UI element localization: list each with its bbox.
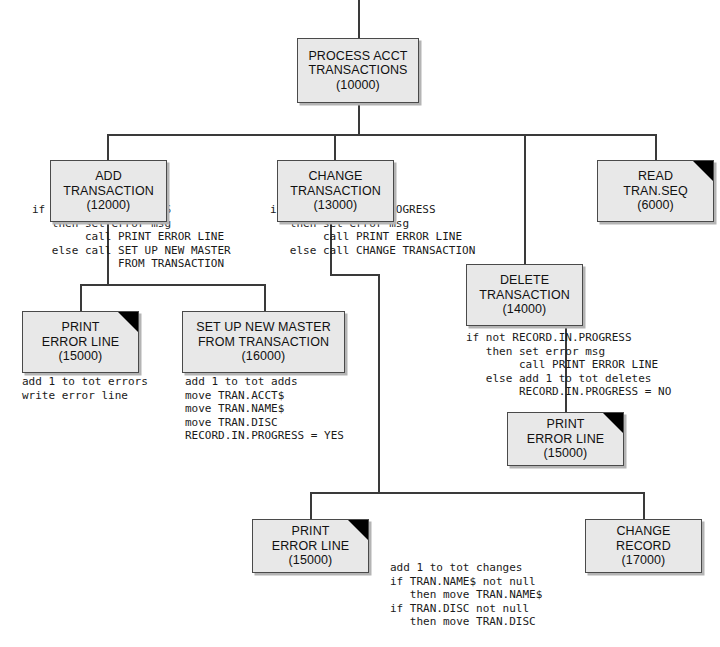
- connector-drop-read: [655, 134, 657, 160]
- module-set-up-new-master[interactable]: SET UP NEW MASTER FROM TRANSACTION (1600…: [182, 311, 345, 373]
- connector-root-to-bus: [358, 103, 360, 136]
- module-label-line1: PRINT: [62, 320, 100, 335]
- connector-drop-print-error-change: [310, 492, 312, 519]
- module-label-line2: TRANSACTION: [63, 184, 154, 199]
- connector-bus-change-children: [310, 492, 645, 494]
- module-number: (13000): [314, 198, 358, 213]
- connector-drop-change-record: [643, 492, 645, 519]
- connector-bus-add-children: [80, 284, 266, 286]
- module-number: (17000): [622, 553, 666, 568]
- module-label-line1: CHANGE: [308, 169, 362, 184]
- module-print-error-line-from-change[interactable]: PRINT ERROR LINE (15000): [252, 519, 369, 573]
- module-label-line2: TRANSACTIONS: [308, 63, 407, 78]
- module-number: (15000): [544, 446, 588, 461]
- pseudocode-print-error-line-from-add: add 1 to tot errors write error line: [22, 375, 148, 402]
- module-label-line1: CHANGE: [616, 524, 670, 539]
- module-label-line2: ERROR LINE: [527, 432, 604, 447]
- module-label-line1: READ: [638, 169, 673, 184]
- module-label-line2: TRANSACTION: [290, 184, 381, 199]
- module-label-line1: SET UP NEW MASTER: [196, 320, 331, 335]
- module-process-acct-transactions[interactable]: PROCESS ACCT TRANSACTIONS (10000): [297, 38, 419, 103]
- connector-drop-delete: [524, 134, 526, 264]
- module-label-line1: PRINT: [547, 417, 585, 432]
- module-print-error-line-from-delete[interactable]: PRINT ERROR LINE (15000): [507, 412, 624, 466]
- module-change-record[interactable]: CHANGE RECORD (17000): [585, 519, 702, 573]
- pseudocode-set-up-new-master: add 1 to tot adds move TRAN.ACCT$ move T…: [185, 375, 344, 443]
- connector-change-long-drop: [378, 274, 380, 494]
- module-label-line1: DELETE: [500, 273, 549, 288]
- module-delete-transaction[interactable]: DELETE TRANSACTION (14000): [466, 264, 583, 326]
- structure-chart-canvas: PROCESS ACCT TRANSACTIONS (10000) ADD TR…: [0, 0, 720, 647]
- module-number: (10000): [336, 78, 380, 93]
- module-number: (15000): [59, 349, 103, 364]
- pseudocode-delete-transaction: if not RECORD.IN.PROGRESS then set error…: [466, 331, 671, 399]
- module-number: (6000): [637, 198, 674, 213]
- module-label-line2: TRANSACTION: [479, 288, 570, 303]
- module-label-line1: PRINT: [292, 524, 330, 539]
- module-number: (15000): [289, 553, 333, 568]
- module-number: (12000): [87, 198, 131, 213]
- connector-bus-row2: [107, 134, 656, 136]
- connector-drop-change: [334, 134, 336, 160]
- module-number: (14000): [503, 302, 547, 317]
- module-read-tran-seq[interactable]: READ TRAN.SEQ (6000): [597, 160, 714, 222]
- connector-drop-add: [107, 134, 109, 160]
- module-add-transaction[interactable]: ADD TRANSACTION (12000): [50, 160, 167, 222]
- module-number: (16000): [242, 349, 286, 364]
- connector-root-stub: [358, 0, 360, 38]
- connector-drop-set-up-new-master: [264, 284, 266, 311]
- module-label-line2: ERROR LINE: [272, 539, 349, 554]
- module-print-error-line-from-add[interactable]: PRINT ERROR LINE (15000): [22, 311, 139, 373]
- module-label-line2: FROM TRANSACTION: [198, 335, 329, 350]
- connector-drop-print-error-add: [80, 284, 82, 311]
- module-label-line2: TRAN.SEQ: [623, 184, 688, 199]
- module-label-line2: RECORD: [616, 539, 671, 554]
- module-label-line2: ERROR LINE: [42, 335, 119, 350]
- module-change-transaction[interactable]: CHANGE TRANSACTION (13000): [277, 160, 394, 222]
- connector-change-jog: [330, 274, 380, 276]
- module-label-line1: ADD: [95, 169, 122, 184]
- module-label-line1: PROCESS ACCT: [308, 49, 407, 64]
- pseudocode-change-record: add 1 to tot changes if TRAN.NAME$ not n…: [390, 561, 542, 629]
